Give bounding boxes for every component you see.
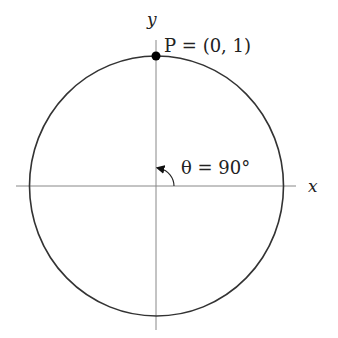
unit-circle-diagram: y x P = (0, 1) θ = 90° xyxy=(0,0,338,338)
x-axis-label: x xyxy=(308,176,318,196)
y-axis-label: y xyxy=(146,9,157,29)
point-p-label: P = (0, 1) xyxy=(164,35,251,56)
point-p xyxy=(152,52,161,61)
angle-arc xyxy=(160,169,174,187)
angle-label: θ = 90° xyxy=(181,157,250,178)
